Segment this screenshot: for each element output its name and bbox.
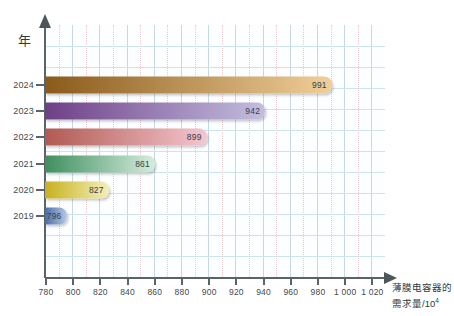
- x-axis-tick: [263, 279, 265, 285]
- x-axis-tick-label: 900: [202, 287, 217, 297]
- x-axis-tick: [344, 279, 346, 285]
- y-axis-tick: [36, 215, 45, 217]
- x-axis-title: 薄膜电容器的需求量/104: [392, 281, 454, 310]
- gridline-horizontal: [45, 151, 385, 152]
- x-axis-tick-label: 1 020: [361, 287, 383, 297]
- x-axis-tick: [290, 279, 292, 285]
- bar-value-label: 796: [47, 211, 62, 221]
- x-axis-tick-label: 820: [93, 287, 108, 297]
- y-axis-arrow: [39, 14, 51, 28]
- gridline-horizontal: [45, 256, 385, 257]
- x-axis-tick: [154, 279, 156, 285]
- gridline-horizontal: [45, 67, 385, 68]
- y-axis-tick: [36, 110, 45, 112]
- y-axis-tick: [36, 189, 45, 191]
- bar-2023: [45, 103, 265, 120]
- y-axis-tick: [36, 84, 45, 86]
- x-axis-title-exponent: 4: [435, 297, 439, 304]
- bar-value-label: 899: [187, 132, 202, 142]
- bar-2024: [45, 77, 332, 94]
- bar-value-label: 942: [245, 106, 260, 116]
- x-axis-tick-label: 980: [311, 287, 326, 297]
- x-axis-tick: [317, 279, 319, 285]
- x-axis-tick-label: 1 000: [334, 287, 356, 297]
- y-axis-tick-label: 2020: [0, 185, 34, 195]
- x-axis-tick-label: 800: [66, 287, 81, 297]
- x-axis-tick: [127, 279, 129, 285]
- y-axis-tick-label: 2023: [0, 106, 34, 116]
- bar-value-label: 861: [135, 159, 150, 169]
- x-axis-title-text: 薄膜电容器的需求量/10: [392, 282, 452, 309]
- y-axis-tick: [36, 163, 45, 165]
- x-axis-tick: [72, 279, 74, 285]
- x-axis-tick-label: 960: [283, 287, 298, 297]
- gridline-horizontal: [45, 46, 385, 47]
- x-axis-tick: [99, 279, 101, 285]
- y-axis-tick-label: 2019: [0, 211, 34, 221]
- gridline-horizontal: [45, 214, 385, 215]
- x-axis-tick: [208, 279, 210, 285]
- bar-chart: 年 薄膜电容器的需求量/104 780800820840860880900920…: [0, 0, 454, 316]
- bar-value-label: 827: [89, 185, 104, 195]
- x-axis-line: [45, 277, 385, 279]
- x-axis-tick-label: 860: [147, 287, 162, 297]
- y-axis-tick: [36, 136, 45, 138]
- x-axis-tick: [45, 279, 47, 285]
- gridline-horizontal: [45, 172, 385, 173]
- y-axis-tick-label: 2021: [0, 159, 34, 169]
- x-axis-tick-label: 920: [229, 287, 244, 297]
- y-axis-line: [44, 27, 46, 278]
- plot-area: [45, 25, 385, 277]
- y-axis-tick-label: 2024: [0, 80, 34, 90]
- bar-2022: [45, 129, 207, 146]
- x-axis-tick: [371, 279, 373, 285]
- y-axis-tick-label: 2022: [0, 132, 34, 142]
- bar-value-label: 991: [312, 80, 327, 90]
- y-axis-title: 年: [18, 30, 31, 49]
- x-axis-tick: [235, 279, 237, 285]
- gridline-horizontal: [45, 235, 385, 236]
- x-axis-tick: [181, 279, 183, 285]
- x-axis-tick-label: 880: [175, 287, 190, 297]
- x-axis-tick-label: 780: [39, 287, 54, 297]
- x-axis-tick-label: 940: [256, 287, 271, 297]
- x-axis-tick-label: 840: [120, 287, 135, 297]
